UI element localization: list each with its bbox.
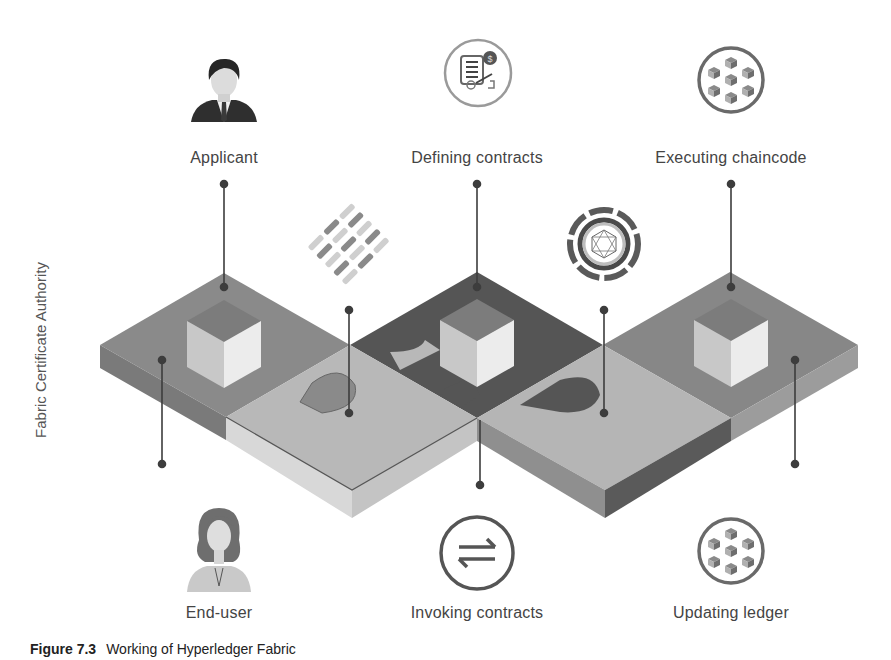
contract-document-icon: $: [445, 40, 511, 106]
svg-text:$: $: [487, 54, 492, 64]
male-user-icon: [191, 59, 257, 122]
network-ring-icon: [570, 210, 638, 278]
side-label-fabric-ca: Fabric Certificate Authority: [32, 262, 49, 438]
label-defining-contracts: Defining contracts: [411, 149, 543, 167]
caption-number: Figure 7.3: [30, 641, 96, 657]
label-applicant: Applicant: [190, 149, 258, 167]
label-invoking-contracts: Invoking contracts: [411, 604, 544, 622]
caption-text: Working of Hyperledger Fabric: [106, 641, 296, 657]
label-end-user: End-user: [186, 604, 253, 622]
woven-blocks-icon: [308, 203, 390, 285]
cubes-cluster-icon: [699, 519, 763, 583]
label-executing-chaincode: Executing chaincode: [655, 149, 806, 167]
label-updating-ledger: Updating ledger: [673, 604, 789, 622]
cubes-cluster-icon: [699, 48, 763, 112]
female-user-icon: [187, 508, 251, 592]
figure-caption: Figure 7.3Working of Hyperledger Fabric: [30, 641, 296, 657]
exchange-arrows-icon: [441, 517, 513, 589]
